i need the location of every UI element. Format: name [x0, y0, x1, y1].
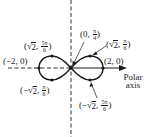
- fraction-numerator: π: [42, 84, 46, 91]
- fraction-numerator: π: [123, 38, 127, 45]
- point-right-vertex: [101, 66, 104, 69]
- sqrt: √2: [28, 86, 37, 96]
- label-text: ,: [36, 42, 41, 51]
- label-text: ): [127, 40, 130, 49]
- fraction: 5π6: [101, 99, 108, 112]
- fraction-denominator: 4: [93, 35, 96, 41]
- point-bottom-left: [50, 78, 53, 81]
- label-text: ,: [37, 86, 42, 95]
- point-top-right: [88, 54, 91, 57]
- point-bottom-right: [88, 78, 91, 81]
- label-bottom-right: (−√2, 5π6): [79, 99, 112, 112]
- label-text: ): [48, 42, 51, 51]
- fraction: π6: [123, 38, 127, 51]
- polar-axis-label-line2: axis: [117, 81, 149, 89]
- label-top-right: (√2, π6): [106, 38, 130, 51]
- fraction-denominator: 6: [43, 47, 46, 53]
- point-pole: [69, 66, 73, 70]
- label-text: ,: [118, 40, 123, 49]
- label-bottom-left: (−√2, π6): [20, 84, 50, 97]
- fraction-denominator: 6: [123, 45, 126, 51]
- label-text: ): [47, 86, 50, 95]
- label-top-left: (√2, 5π6): [24, 40, 51, 53]
- label-text: ,: [88, 30, 93, 39]
- sqrt: √2: [87, 101, 96, 111]
- lemniscate-graph: [0, 0, 151, 137]
- fraction: π4: [93, 28, 97, 41]
- label-text: ): [97, 30, 100, 39]
- fraction-numerator: 5π: [41, 40, 48, 47]
- label-right-vertex: (2, 0): [104, 57, 124, 66]
- point-left-vertex: [37, 66, 40, 69]
- label-text: ,: [96, 101, 101, 110]
- fraction-numerator: 5π: [101, 99, 108, 106]
- sqrt: √2: [27, 42, 36, 52]
- label-text: (−2, 0): [3, 57, 28, 66]
- fraction-denominator: 6: [103, 106, 106, 112]
- label-text: ): [109, 101, 112, 110]
- polar-axis-label: Polar axis: [117, 73, 149, 89]
- label-text: (2, 0): [104, 57, 124, 66]
- fraction: 5π6: [41, 40, 48, 53]
- fraction: π6: [42, 84, 46, 97]
- fraction-denominator: 6: [43, 91, 46, 97]
- fraction-numerator: π: [93, 28, 97, 35]
- label-pole: (0, π4): [80, 28, 100, 41]
- label-left-vertex: (−2, 0): [3, 57, 28, 66]
- sqrt: √2: [109, 40, 118, 50]
- point-top-left: [50, 54, 53, 57]
